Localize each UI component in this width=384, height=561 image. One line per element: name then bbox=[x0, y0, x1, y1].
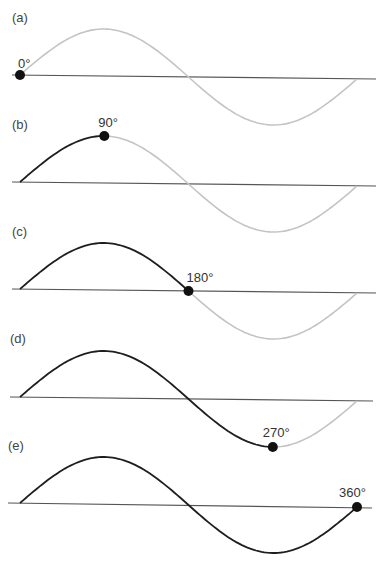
panel-a-untraced-wave bbox=[20, 29, 357, 125]
panel-d-angle-label: 270° bbox=[263, 425, 290, 440]
panel-b-angle-label: 90° bbox=[98, 115, 118, 130]
panel-d-label: (d) bbox=[10, 331, 26, 346]
panel-c-angle-label: 180° bbox=[187, 270, 214, 285]
panel-c: (c) 180° bbox=[12, 224, 376, 339]
panel-e-position-dot bbox=[352, 502, 362, 512]
panel-b-baseline bbox=[12, 182, 376, 186]
panel-e-angle-label: 360° bbox=[339, 485, 366, 500]
panel-e: (e) 360° bbox=[8, 438, 372, 553]
sine-wave-diagram: (a) 0° (b) 90° (c) 180° (d) 270° (e) bbox=[0, 0, 384, 561]
panel-a-baseline bbox=[12, 75, 376, 79]
panel-d: (d) 270° bbox=[10, 331, 373, 452]
panel-c-position-dot bbox=[184, 286, 194, 296]
panel-b-position-dot bbox=[99, 131, 109, 141]
panel-b-traced-wave bbox=[20, 136, 104, 182]
panel-e-label: (e) bbox=[8, 438, 24, 453]
panel-d-baseline bbox=[10, 397, 373, 401]
panel-c-label: (c) bbox=[12, 224, 27, 239]
panel-c-traced-wave bbox=[20, 243, 189, 291]
panel-e-traced-wave bbox=[20, 457, 357, 553]
panel-c-baseline bbox=[12, 289, 376, 293]
panel-c-untraced-wave bbox=[189, 291, 358, 339]
panel-a: (a) 0° bbox=[12, 10, 376, 125]
panel-a-position-dot bbox=[15, 70, 25, 80]
panel-a-label: (a) bbox=[12, 10, 28, 25]
panel-d-position-dot bbox=[268, 442, 278, 452]
panel-b: (b) 90° bbox=[12, 115, 376, 232]
panel-d-untraced-wave bbox=[273, 401, 357, 447]
panel-a-angle-label: 0° bbox=[18, 56, 30, 71]
panel-b-label: (b) bbox=[12, 117, 28, 132]
